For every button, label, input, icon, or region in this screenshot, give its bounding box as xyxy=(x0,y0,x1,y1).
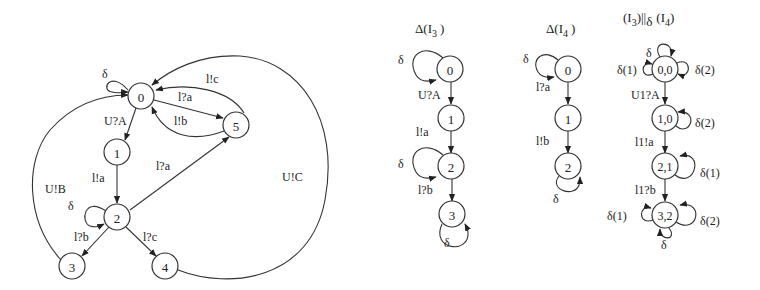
state-node: 0,0 xyxy=(652,56,678,82)
delta-i4-automaton: Δ(I4) δ l?a l!b δ 0 1 2 xyxy=(523,21,581,206)
svg-text:4: 4 xyxy=(162,260,169,275)
edge-label: l?b xyxy=(74,230,89,244)
state-node: 5 xyxy=(223,112,249,138)
state-node: 1 xyxy=(438,105,464,131)
edge-label: U!B xyxy=(45,182,66,196)
edge-label: δ xyxy=(398,157,404,171)
edge-2-2-self xyxy=(85,206,106,226)
svg-text:5: 5 xyxy=(233,119,240,134)
diagram-canvas: δ U?A l?a l!b l!c l!a δ l?a l?b l?c U!B … xyxy=(0,0,760,290)
diagram-title: (I3)||δ(I4) xyxy=(623,10,674,29)
svg-text:3: 3 xyxy=(69,260,76,275)
edge-32-self-left xyxy=(641,208,653,222)
edge-5-0-c xyxy=(156,87,244,113)
edge-label: l1?b xyxy=(635,183,656,197)
edge-label: l!a xyxy=(416,125,429,139)
diagram-title: Δ(I4) xyxy=(546,21,575,39)
svg-text:0: 0 xyxy=(447,63,454,78)
edge-label: δ(2) xyxy=(695,63,715,77)
state-node: 2 xyxy=(555,153,581,179)
svg-text:2: 2 xyxy=(114,211,121,226)
state-node: 3 xyxy=(439,201,465,227)
edge-label: l!b xyxy=(536,134,549,148)
state-node: 1 xyxy=(104,139,130,165)
state-node: 2 xyxy=(104,204,130,230)
edge-label: U!C xyxy=(282,170,303,184)
svg-text:1: 1 xyxy=(114,146,121,161)
svg-text:2,1: 2,1 xyxy=(658,160,673,174)
edge-32-self-bottom xyxy=(660,228,672,238)
edge-label: δ xyxy=(646,46,652,60)
edge-label: δ xyxy=(553,192,559,206)
edge-label: U?A xyxy=(104,114,127,128)
edge-label: δ(1) xyxy=(617,63,637,77)
diagram-title: Δ(I3) xyxy=(415,21,444,39)
edge-label: l!a xyxy=(92,171,105,185)
edge-label: l?a xyxy=(156,159,171,173)
edge-0-0-self xyxy=(107,81,128,93)
state-node: 4 xyxy=(152,253,178,279)
delta-i3-automaton: Δ(I3) δ U?A l!a δ l?b δ 0 1 2 3 xyxy=(398,21,468,250)
svg-text:0: 0 xyxy=(138,90,145,105)
state-node: 3 xyxy=(59,253,85,279)
state-node: 0 xyxy=(437,56,463,82)
svg-text:1: 1 xyxy=(448,112,455,127)
edge-label: l?a xyxy=(178,90,193,104)
edge-label: δ(1) xyxy=(700,166,720,180)
svg-text:2: 2 xyxy=(448,160,455,175)
edge-0-0-self xyxy=(536,55,558,78)
edge-label: δ xyxy=(398,53,404,67)
state-node: 2 xyxy=(438,153,464,179)
edge-00-self-top xyxy=(658,44,672,57)
edge-label: δ(1) xyxy=(607,209,627,223)
edge-label: l?c xyxy=(143,230,157,244)
svg-text:0,0: 0,0 xyxy=(658,63,673,77)
edge-00-self-right xyxy=(677,62,688,75)
edge-label: l!c xyxy=(206,72,219,86)
edge-32-self-right xyxy=(676,205,696,226)
svg-text:3,2: 3,2 xyxy=(658,209,673,223)
svg-text:0: 0 xyxy=(565,63,572,78)
edge-label: δ xyxy=(523,52,529,66)
state-node: 0 xyxy=(128,83,154,109)
edge-label: δ(2) xyxy=(700,214,720,228)
edge-label: δ(2) xyxy=(695,116,715,130)
edge-label: l?a xyxy=(536,80,551,94)
svg-text:1,0: 1,0 xyxy=(658,112,673,126)
edge-label: l!b xyxy=(174,114,187,128)
state-node: 3,2 xyxy=(652,202,678,228)
state-node: 2,1 xyxy=(652,153,678,179)
edge-label: δ xyxy=(68,199,74,213)
state-node: 1,0 xyxy=(652,105,678,131)
composition-automaton: (I3)||δ(I4) δ δ(1) δ(2) U1?A δ(2) l1!a δ… xyxy=(607,10,720,252)
edge-label: U1?A xyxy=(631,88,660,102)
left-automaton: δ U?A l?a l!b l!c l!a δ l?a l?b l?c U!B … xyxy=(32,56,328,279)
edge-label: U?A xyxy=(418,88,441,102)
svg-text:2: 2 xyxy=(565,160,572,175)
edge-label: l1!a xyxy=(635,135,654,149)
edge-label: δ xyxy=(661,238,667,252)
state-node: 0 xyxy=(555,56,581,82)
edge-label: δ xyxy=(444,236,450,250)
edge-label: δ xyxy=(102,67,108,81)
edge-5-0-b xyxy=(152,107,224,137)
svg-text:1: 1 xyxy=(565,112,572,127)
svg-text:3: 3 xyxy=(449,208,456,223)
edge-label: l?b xyxy=(418,183,433,197)
state-node: 1 xyxy=(555,105,581,131)
edge-2-5 xyxy=(130,137,229,210)
